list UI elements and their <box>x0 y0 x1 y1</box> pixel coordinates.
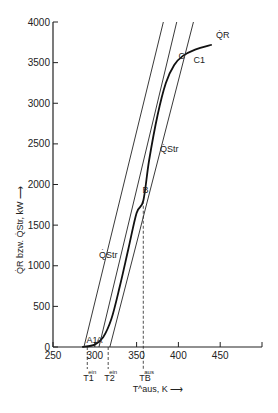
axes <box>53 22 262 347</box>
chart: 0500100015002000250030003500400025030035… <box>0 0 278 413</box>
marker-superscript: ein <box>109 369 117 375</box>
x-tick-label: 300 <box>86 350 103 361</box>
annotation-label: Q̇Str <box>99 249 118 259</box>
y-tick-label: 4000 <box>28 17 51 28</box>
annotation-label: A <box>96 335 102 345</box>
y-tick-label: 1000 <box>28 260 51 271</box>
y-axis-label: Q̇R bzw. Q̇Str, kW ⟶ <box>15 186 25 274</box>
annotations: A1ABCC1Q̇RQ̇StrQ̇Str <box>86 30 230 345</box>
x-tick-label: 450 <box>212 350 229 361</box>
annotation-label: C1 <box>193 55 205 65</box>
ticks: 0500100015002000250030003500400025030035… <box>28 17 229 362</box>
y-tick-label: 2500 <box>28 138 51 149</box>
y-tick-label: 500 <box>33 301 50 312</box>
y-tick-label: 1500 <box>28 220 51 231</box>
marker-superscript: aus <box>144 369 154 375</box>
axis-labels: T^aus, K ⟶ Q̇R bzw. Q̇Str, kW ⟶ <box>15 186 184 394</box>
y-tick-label: 3500 <box>28 57 51 68</box>
annotation-label: B <box>142 185 148 195</box>
x-axis-label: T^aus, K ⟶ <box>133 384 184 394</box>
x-tick-label: 400 <box>170 350 187 361</box>
marker-superscript: ein <box>88 369 96 375</box>
x-tick-label: 350 <box>128 350 145 361</box>
y-tick-label: 3000 <box>28 98 51 109</box>
annotation-label: Q̇Str <box>160 144 179 154</box>
series-QStr-line-2 <box>99 22 177 347</box>
x-tick-label: 250 <box>45 350 62 361</box>
annotation-label: Q̇R <box>216 30 230 40</box>
y-tick-label: 2000 <box>28 179 51 190</box>
annotation-label: C <box>178 51 185 61</box>
